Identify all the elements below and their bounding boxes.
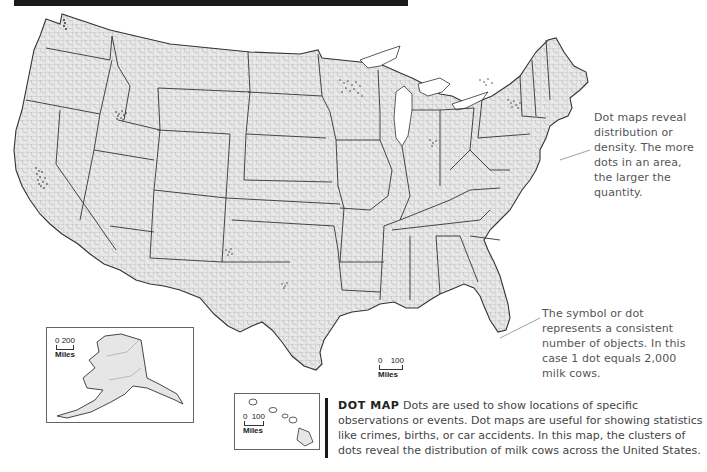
dot-map-caption: DOT MAP Dots are used to show locations …: [325, 398, 707, 458]
scale-start: 0: [55, 336, 59, 345]
scale-end: 200: [62, 336, 75, 345]
alaska-scale: 0200 Miles: [55, 336, 75, 359]
scale-end: 100: [252, 412, 265, 421]
scale-unit: Miles: [243, 426, 265, 435]
scale-start: 0: [378, 356, 382, 365]
mainland-scale: 0100 Miles: [378, 356, 404, 379]
scale-unit: Miles: [55, 350, 75, 359]
caption-title: DOT MAP: [338, 399, 400, 412]
mainland-us: [14, 14, 588, 370]
hawaii-inset: 0100 Miles: [234, 393, 320, 450]
scale-start: 0: [243, 412, 247, 421]
density-annotation: Dot maps reveal distribution or density.…: [594, 110, 694, 200]
alaska-inset: 0200 Miles: [46, 327, 194, 423]
scale-unit: Miles: [378, 370, 404, 379]
hawaii-scale: 0100 Miles: [243, 412, 265, 435]
scale-end: 100: [391, 356, 404, 365]
symbol-annotation: The symbol or dot represents a consisten…: [542, 306, 702, 381]
